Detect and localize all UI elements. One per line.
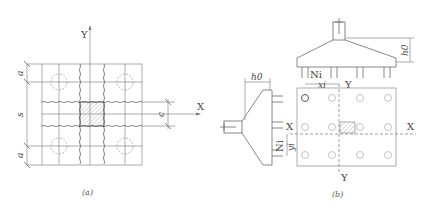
dim-a-top: a [15, 71, 25, 76]
h0-side-label: h0 [251, 72, 263, 82]
panel-b: h0 Ni xi Y h0 X Ni yi [220, 18, 416, 199]
caption-b: (b) [332, 190, 343, 199]
column-section [340, 122, 355, 133]
yi-label: yi [286, 143, 296, 152]
dim-s: s [15, 112, 25, 117]
pile-highlight [302, 95, 309, 102]
plan-y-bottom: Y [340, 172, 348, 183]
axis-y-label: Y [80, 29, 88, 40]
top-elevation: h0 Ni xi Y [297, 18, 414, 90]
dim-a-bottom: a [15, 153, 25, 158]
pile-cap-diagram: Y X a s a c (a) h0 Ni [0, 0, 428, 213]
column-section [80, 102, 104, 126]
ni-top-label: Ni [310, 69, 322, 80]
xi-label: xi [318, 80, 326, 90]
plan-x-left: X [286, 121, 294, 132]
h0-top-label: h0 [400, 44, 410, 56]
plan-view: X Y [290, 84, 416, 183]
dim-c: c [156, 112, 166, 117]
side-elevation: h0 X Ni yi [220, 72, 296, 165]
axis-x-label: X [197, 101, 205, 112]
ni-side-label: Ni [274, 140, 285, 152]
caption-a: (a) [82, 188, 93, 197]
panel-a: Y X a s a c (a) [15, 25, 205, 197]
plan-x-right: X [407, 121, 415, 132]
